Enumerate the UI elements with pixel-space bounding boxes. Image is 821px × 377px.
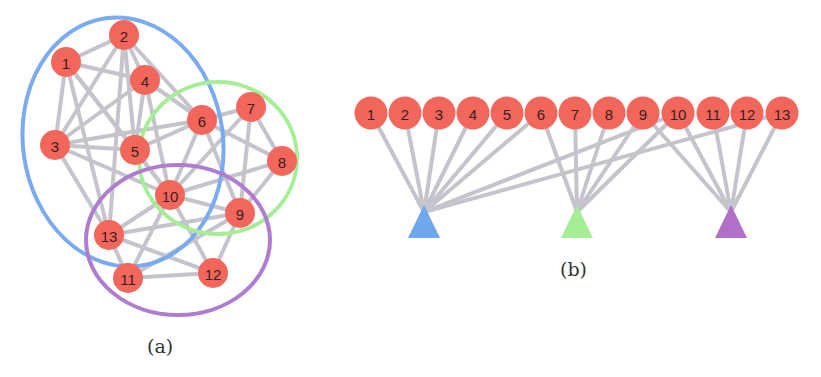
node-label: 13 bbox=[774, 106, 791, 123]
node-6: 6 bbox=[187, 105, 217, 135]
panel-a-edges bbox=[55, 35, 282, 278]
caption-b: (b) bbox=[560, 258, 587, 280]
node-5: 5 bbox=[120, 135, 150, 165]
panel-b-nodes: 12345678910111213 bbox=[355, 97, 799, 130]
node-label: 11 bbox=[705, 106, 721, 123]
node-13: 13 bbox=[94, 220, 124, 250]
node-3: 3 bbox=[423, 97, 456, 130]
node-label: 6 bbox=[537, 106, 545, 123]
figure-canvas: 12345678910111213 12345678910111213 bbox=[0, 0, 821, 377]
caption-a: (a) bbox=[147, 335, 173, 357]
node-label: 2 bbox=[120, 28, 128, 45]
node-12: 12 bbox=[198, 258, 228, 288]
node-label: 7 bbox=[571, 106, 579, 123]
node-label: 5 bbox=[131, 143, 139, 160]
node-1: 1 bbox=[51, 47, 81, 77]
node-label: 12 bbox=[739, 106, 756, 123]
node-11: 11 bbox=[697, 97, 730, 130]
panel-b-bipartite: 12345678910111213 bbox=[355, 97, 799, 239]
node-label: 1 bbox=[367, 106, 375, 123]
node-13: 13 bbox=[766, 97, 799, 130]
node-label: 11 bbox=[120, 271, 136, 288]
node-2: 2 bbox=[109, 20, 139, 50]
node-label: 1 bbox=[62, 55, 70, 72]
panel-b-community-triangles bbox=[408, 205, 747, 238]
node-label: 10 bbox=[670, 106, 687, 123]
node-label: 3 bbox=[51, 138, 59, 155]
node-9: 9 bbox=[627, 97, 660, 130]
node-7: 7 bbox=[559, 97, 592, 130]
panel-a-community-ellipses bbox=[7, 4, 297, 315]
panel-a-network: 12345678910111213 bbox=[7, 4, 297, 315]
node-label: 8 bbox=[278, 154, 286, 171]
node-label: 3 bbox=[435, 106, 443, 123]
node-11: 11 bbox=[113, 263, 143, 293]
node-3: 3 bbox=[40, 130, 70, 160]
node-1: 1 bbox=[355, 97, 388, 130]
node-7: 7 bbox=[236, 92, 266, 122]
node-label: 4 bbox=[469, 106, 477, 123]
node-4: 4 bbox=[457, 97, 490, 130]
node-label: 10 bbox=[162, 188, 179, 205]
node-label: 12 bbox=[205, 266, 222, 283]
community-green-triangle-icon bbox=[561, 205, 593, 238]
node-label: 2 bbox=[401, 106, 409, 123]
node-label: 4 bbox=[141, 73, 149, 90]
node-10: 10 bbox=[662, 97, 695, 130]
node-8: 8 bbox=[593, 97, 626, 130]
node-label: 6 bbox=[198, 113, 206, 130]
node-10: 10 bbox=[155, 180, 185, 210]
node-label: 13 bbox=[101, 228, 118, 245]
node-5: 5 bbox=[491, 97, 524, 130]
node-6: 6 bbox=[525, 97, 558, 130]
node-label: 7 bbox=[247, 100, 255, 117]
edge bbox=[240, 107, 251, 213]
node-9: 9 bbox=[225, 198, 255, 228]
node-2: 2 bbox=[389, 97, 422, 130]
node-4: 4 bbox=[130, 65, 160, 95]
node-label: 5 bbox=[503, 106, 511, 123]
node-12: 12 bbox=[731, 97, 764, 130]
node-8: 8 bbox=[267, 146, 297, 176]
community-purple-triangle-icon bbox=[715, 205, 747, 238]
node-label: 9 bbox=[639, 106, 647, 123]
node-label: 8 bbox=[605, 106, 613, 123]
node-label: 9 bbox=[236, 206, 244, 223]
